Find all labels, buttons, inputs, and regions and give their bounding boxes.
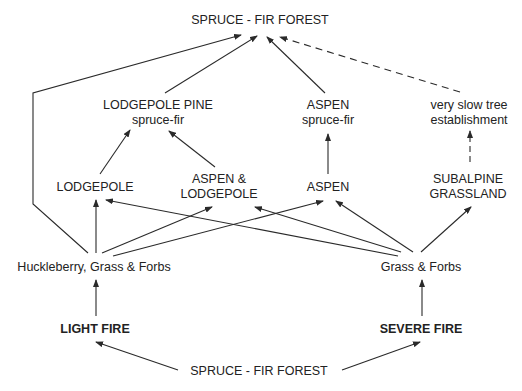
node-very-slow-tree-establishment: very slow tree establishment: [430, 98, 507, 128]
node-subalpine-grassland: SUBALPINE GRASSLAND: [429, 172, 506, 202]
node-label-line2: LODGEPOLE: [180, 187, 257, 202]
node-grass-forbs: Grass & Forbs: [381, 260, 462, 275]
node-label: Grass & Forbs: [381, 260, 462, 274]
node-top-spruce-fir-forest: SPRUCE - FIR FOREST: [191, 13, 329, 28]
node-severe-fire: SEVERE FIRE: [380, 322, 463, 337]
edge-huckleberry-to-aspen-lodgepole: [102, 207, 212, 253]
node-lodgepole-pine-spruce-fir: LODGEPOLE PINE spruce-fir: [103, 98, 213, 128]
node-label: Huckleberry, Grass & Forbs: [17, 260, 170, 274]
node-label-line1: ASPEN: [302, 98, 354, 113]
node-label: LIGHT FIRE: [60, 322, 129, 336]
node-bottom-spruce-fir-forest: SPRUCE - FIR FOREST: [190, 364, 328, 379]
edge-bottom-to-severe-fire: [342, 342, 420, 370]
node-aspen: ASPEN: [307, 180, 349, 195]
node-label-line2: spruce-fir: [103, 113, 213, 128]
node-label: SEVERE FIRE: [380, 322, 463, 336]
node-label-line1: LODGEPOLE PINE: [103, 98, 213, 113]
node-label: SPRUCE - FIR FOREST: [191, 13, 329, 27]
node-label: SPRUCE - FIR FOREST: [190, 364, 328, 378]
node-huckleberry-grass-forbs: Huckleberry, Grass & Forbs: [17, 260, 170, 275]
edge-grass-to-subalpine: [421, 207, 471, 252]
edge-huckleberry-to-aspen: [113, 201, 323, 256]
edge-aspen-lodgepole-to-lodgepole-pine-sf: [169, 131, 215, 167]
node-label: LODGEPOLE: [56, 180, 133, 194]
node-label-line2: establishment: [430, 113, 507, 128]
node-label-line2: GRASSLAND: [429, 187, 506, 202]
node-light-fire: LIGHT FIRE: [60, 322, 129, 337]
node-aspen-spruce-fir: ASPEN spruce-fir: [302, 98, 354, 128]
node-label: ASPEN: [307, 180, 349, 194]
edge-grass-to-lodgepole: [106, 200, 398, 256]
edge-lodgepole-to-lodgepole-pine-sf: [100, 130, 130, 174]
edge-bottom-to-light-fire: [96, 342, 178, 370]
node-label-line1: ASPEN &: [180, 172, 257, 187]
node-lodgepole: LODGEPOLE: [56, 180, 133, 195]
node-label-line2: spruce-fir: [302, 113, 354, 128]
edge-lodgepole-pine-sf-to-top: [165, 36, 257, 93]
node-label-line1: SUBALPINE: [429, 172, 506, 187]
edge-slow-tree-to-top: [280, 37, 460, 92]
node-label-line1: very slow tree: [430, 98, 507, 113]
edge-aspen-sf-to-top: [267, 37, 325, 93]
node-aspen-and-lodgepole: ASPEN & LODGEPOLE: [180, 172, 257, 202]
